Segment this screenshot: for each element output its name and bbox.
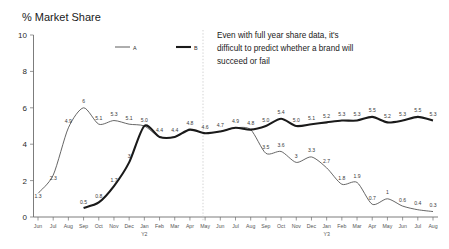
data-label: 5.3 bbox=[429, 111, 436, 117]
annotation-line-2: difficult to predict whether a brand wil… bbox=[217, 44, 354, 53]
market-share-chart: % Market Share 0246810 A B Even with ful… bbox=[0, 0, 449, 249]
data-label: 4.4 bbox=[156, 127, 163, 133]
x-tick-label: Jun bbox=[34, 223, 42, 229]
data-label: 0.7 bbox=[369, 195, 376, 201]
series-a-data-labels: 1.32.34.965.15.35.15.04.44.44.84.64.74.9… bbox=[34, 98, 436, 208]
data-label: 2.7 bbox=[323, 158, 330, 164]
data-label: 3 bbox=[128, 153, 131, 159]
data-label: 5.4 bbox=[278, 109, 285, 115]
data-label: 3.5 bbox=[262, 144, 269, 150]
x-tick-label: Oct bbox=[95, 223, 104, 229]
y-axis-ticks: 0246810 bbox=[18, 31, 33, 222]
data-label: 0.4 bbox=[414, 200, 421, 206]
annotation-line-1: Even with full year share data, it's bbox=[217, 31, 339, 40]
x-tick-label: May bbox=[200, 223, 210, 229]
x-tick-label: Dec bbox=[307, 223, 317, 229]
chart-title-group: % Market Share bbox=[22, 11, 101, 23]
data-label: 4.8 bbox=[186, 120, 193, 126]
page-title: % Market Share bbox=[22, 11, 101, 23]
data-label: 5.2 bbox=[384, 113, 391, 119]
data-label: 0.3 bbox=[429, 202, 436, 208]
chart-svg: % Market Share 0246810 A B Even with ful… bbox=[0, 0, 449, 249]
data-label: 1.7 bbox=[110, 177, 117, 183]
x-tick-label: May bbox=[383, 223, 393, 229]
x-axis-year-labels: Y2Y3 bbox=[141, 231, 330, 237]
data-label: 4.8 bbox=[247, 120, 254, 126]
x-tick-label: Jul bbox=[414, 223, 421, 229]
x-tick-label: Aug bbox=[64, 223, 73, 229]
series-line-b bbox=[84, 117, 433, 208]
data-label: 5.2 bbox=[323, 113, 330, 119]
legend-label-a: A bbox=[133, 45, 137, 51]
x-tick-label: Nov bbox=[292, 223, 302, 229]
legend-label-b: B bbox=[194, 45, 198, 51]
y-tick-label: 6 bbox=[23, 104, 28, 113]
x-tick-label: Sep bbox=[261, 223, 270, 229]
x-tick-label: Apr bbox=[186, 223, 194, 229]
data-label: 1.9 bbox=[353, 173, 360, 179]
data-label: 4.6 bbox=[202, 124, 209, 130]
x-tick-label: Jul bbox=[50, 223, 57, 229]
data-label: 6 bbox=[82, 98, 85, 104]
data-label: 1.3 bbox=[34, 193, 41, 199]
data-label: 0.8 bbox=[95, 193, 102, 199]
data-label: 5.3 bbox=[110, 111, 117, 117]
y-tick-label: 4 bbox=[23, 140, 28, 149]
x-tick-label: Mar bbox=[353, 223, 362, 229]
data-label: 5.0 bbox=[141, 117, 148, 123]
x-tick-label: Jan bbox=[140, 223, 148, 229]
x-tick-label: Apr bbox=[368, 223, 376, 229]
data-label: 5.3 bbox=[338, 111, 345, 117]
x-tick-label: Jun bbox=[398, 223, 406, 229]
data-label: 5.1 bbox=[308, 115, 315, 121]
x-tick-label: Aug bbox=[428, 223, 437, 229]
x-tick-label: Jul bbox=[232, 223, 239, 229]
x-tick-label: Sep bbox=[79, 223, 88, 229]
data-label: 5.3 bbox=[353, 111, 360, 117]
x-tick-label: Nov bbox=[109, 223, 119, 229]
y-tick-label: 2 bbox=[23, 177, 28, 186]
data-label: 1 bbox=[386, 189, 389, 195]
data-label: 3 bbox=[295, 153, 298, 159]
data-label: 5.0 bbox=[293, 117, 300, 123]
data-label: 5.0 bbox=[262, 117, 269, 123]
data-label: 4.7 bbox=[217, 122, 224, 128]
x-tick-label: Jun bbox=[216, 223, 224, 229]
x-tick-label: Jan bbox=[322, 223, 330, 229]
data-label: 2.3 bbox=[50, 175, 57, 181]
x-tick-label: Feb bbox=[155, 223, 164, 229]
data-label: 4.9 bbox=[232, 118, 239, 124]
data-label: 1.8 bbox=[338, 175, 345, 181]
y-tick-label: 0 bbox=[23, 213, 28, 222]
x-axis-tickmarks bbox=[38, 217, 433, 221]
annotation-text: Even with full year share data, it's dif… bbox=[217, 31, 354, 66]
y-tick-label: 8 bbox=[23, 67, 28, 76]
x-tick-label: Aug bbox=[246, 223, 255, 229]
annotation-line-3: succeed or fail bbox=[217, 57, 270, 66]
data-label: 3.3 bbox=[308, 147, 315, 153]
x-year-label: Y3 bbox=[323, 231, 329, 237]
x-tick-label: Oct bbox=[277, 223, 286, 229]
data-label: 4.9 bbox=[65, 118, 72, 124]
data-label: 0.5 bbox=[80, 199, 87, 205]
data-label: 5.1 bbox=[126, 115, 133, 121]
x-axis-labels: JunJulAugSepOctNovDecJanFebMarAprMayJunJ… bbox=[34, 223, 438, 229]
x-tick-label: Mar bbox=[170, 223, 179, 229]
data-label: 4.4 bbox=[171, 127, 178, 133]
data-label: 5.3 bbox=[399, 111, 406, 117]
data-label: 5.5 bbox=[369, 107, 376, 113]
x-tick-label: Feb bbox=[337, 223, 346, 229]
x-year-label: Y2 bbox=[141, 231, 147, 237]
y-tick-label: 10 bbox=[18, 31, 27, 40]
data-label: 5.1 bbox=[95, 115, 102, 121]
data-label: 5.5 bbox=[414, 107, 421, 113]
x-tick-label: Dec bbox=[125, 223, 135, 229]
legend: A B bbox=[115, 45, 198, 51]
data-label: 3.6 bbox=[278, 142, 285, 148]
data-label: 0.6 bbox=[399, 197, 406, 203]
